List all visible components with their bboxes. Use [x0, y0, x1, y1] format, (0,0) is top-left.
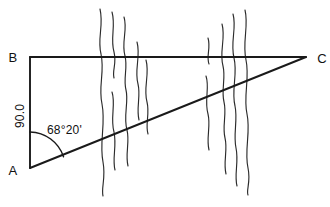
grass-stroke: [137, 42, 139, 120]
grass-stroke: [206, 76, 209, 150]
grass-stroke: [222, 24, 226, 174]
grass-stroke: [245, 10, 249, 195]
grass-stroke: [112, 12, 115, 78]
grass-cluster-right: [206, 10, 249, 195]
grass-stroke: [100, 9, 104, 196]
vertex-label-a: A: [9, 163, 18, 178]
grass-layer: [100, 9, 249, 196]
grass-cluster-left: [100, 9, 148, 196]
triangle-layer: [30, 57, 306, 168]
survey-triangle-figure: A B C 90.0 68°20': [0, 0, 330, 207]
grass-stroke: [233, 14, 237, 186]
label-layer: A B C 90.0 68°20': [9, 50, 327, 178]
grass-stroke: [146, 60, 148, 134]
vertex-label-c: C: [317, 51, 327, 66]
figure-canvas: A B C 90.0 68°20': [0, 0, 330, 207]
grass-stroke: [124, 17, 128, 166]
grass-stroke: [112, 92, 115, 170]
vertex-label-b: B: [9, 50, 18, 65]
side-ab-length-label: 90.0: [13, 104, 27, 128]
edge-ac: [30, 57, 306, 168]
grass-stroke: [208, 38, 209, 64]
angle-a-measure-label: 68°20': [47, 123, 82, 137]
